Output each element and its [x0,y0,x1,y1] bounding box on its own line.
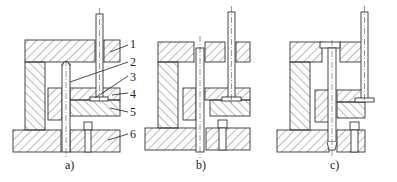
callout-2: 2 [130,55,136,70]
mold-ejection-diagram [0,0,397,182]
callout-5: 5 [130,105,136,120]
top-plate [158,42,194,62]
bottom-plate [277,130,329,152]
retainer-plate [315,90,329,122]
caption-c: c) [330,158,339,173]
ejector-plate [70,100,120,116]
callout-4: 4 [130,87,136,102]
top-plate [290,42,322,62]
pin-head-recess [320,42,340,48]
bottom-plate [13,130,61,152]
callout-3: 3 [130,70,136,85]
panel-c [277,6,374,158]
caption-a: a) [65,158,74,173]
bottom-plate [145,128,197,150]
retainer-plate [48,88,62,120]
panel-a [13,8,128,158]
retainer-plate [183,88,196,120]
ejector-plate [337,102,365,118]
caption-b: b) [196,158,206,173]
top-plate [25,40,95,62]
side-wall [158,62,178,128]
ejector-plate [210,100,250,116]
side-wall [25,62,45,130]
panel-b [145,6,250,158]
callout-1: 1 [130,37,136,52]
side-wall [290,62,310,130]
callout-6: 6 [130,127,136,142]
